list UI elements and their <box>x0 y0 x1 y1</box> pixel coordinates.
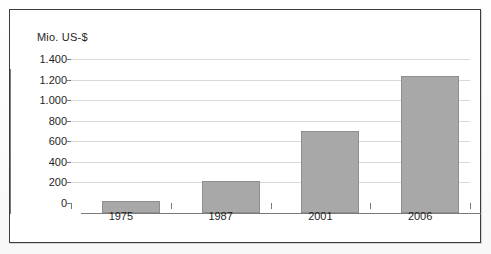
y-tick-label: 0 <box>21 197 67 209</box>
bar <box>301 131 359 213</box>
plot-area <box>81 69 480 213</box>
bar <box>202 181 260 213</box>
y-tick-mark <box>67 80 71 81</box>
y-tick-mark <box>67 162 71 163</box>
y-tick-mark <box>67 182 71 183</box>
x-tick-label: 1987 <box>208 210 232 222</box>
y-tick-label: 800 <box>21 115 67 127</box>
y-tick-label: 600 <box>21 135 67 147</box>
x-tick-mark <box>370 203 371 209</box>
y-axis-title: Mio. US-$ <box>37 31 88 43</box>
x-tick-mark <box>271 203 272 209</box>
x-tick-label: 2001 <box>308 210 332 222</box>
y-tick-label: 1.400 <box>21 53 67 65</box>
y-tick-mark <box>67 141 71 142</box>
y-tick-label: 1.200 <box>21 74 67 86</box>
y-tick-mark <box>67 59 71 60</box>
chart-screenshot: Mio. US-$ 02004006008001.0001.2001.400 1… <box>0 0 491 254</box>
y-tick-label: 200 <box>21 176 67 188</box>
y-axis-line <box>10 69 11 214</box>
gridline <box>71 59 470 60</box>
x-tick-mark <box>470 203 471 209</box>
y-tick-label: 400 <box>21 156 67 168</box>
bar <box>401 76 459 213</box>
x-tick-mark <box>171 203 172 209</box>
y-tick-mark <box>67 100 71 101</box>
y-tick-label: 1.000 <box>21 94 67 106</box>
y-tick-mark <box>67 121 71 122</box>
x-tick-mark <box>71 203 72 209</box>
chart-frame: Mio. US-$ 02004006008001.0001.2001.400 1… <box>9 9 481 243</box>
x-tick-label: 2006 <box>408 210 432 222</box>
x-tick-label: 1975 <box>109 210 133 222</box>
